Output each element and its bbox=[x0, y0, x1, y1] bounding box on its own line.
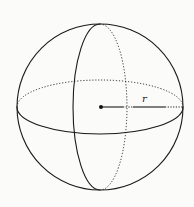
equator-front bbox=[17, 107, 183, 134]
meridian-front bbox=[73, 24, 100, 190]
center-point bbox=[99, 105, 103, 109]
sphere-diagram: r bbox=[0, 0, 194, 207]
radius-label: r bbox=[142, 93, 148, 104]
equator-back bbox=[17, 80, 183, 107]
